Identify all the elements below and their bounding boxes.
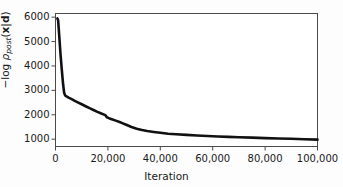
y-axis-title-d: d [0, 16, 11, 24]
x-tick-label: 100,000 [288, 154, 343, 164]
x-tick-marks [56, 147, 318, 151]
y-axis-title-open-paren: ( [0, 33, 11, 37]
y-axis-title: −log ρpost(x|d) [0, 0, 16, 110]
y-axis-title-x: x [0, 27, 11, 34]
y-axis-title-rho: ρ [0, 54, 11, 61]
y-axis-title-bar: | [0, 23, 11, 27]
x-tick-label: 80,000 [235, 154, 295, 164]
y-tick-label: 1000 [0, 134, 50, 144]
y-axis-title-minus: − [0, 80, 11, 89]
x-tick-label: 20,000 [78, 154, 138, 164]
x-tick-label: 40,000 [130, 154, 190, 164]
y-axis-title-subscript: post [4, 38, 13, 54]
y-axis-title-close-paren: ) [0, 11, 11, 15]
y-tick-label: 2000 [0, 110, 50, 120]
x-tick-label: 0 [26, 154, 86, 164]
y-tick-marks [52, 17, 56, 139]
y-axis-title-log: log [0, 64, 11, 80]
plot-frame [56, 14, 318, 147]
x-axis-title: Iteration [0, 171, 333, 182]
x-tick-label: 60,000 [183, 154, 243, 164]
